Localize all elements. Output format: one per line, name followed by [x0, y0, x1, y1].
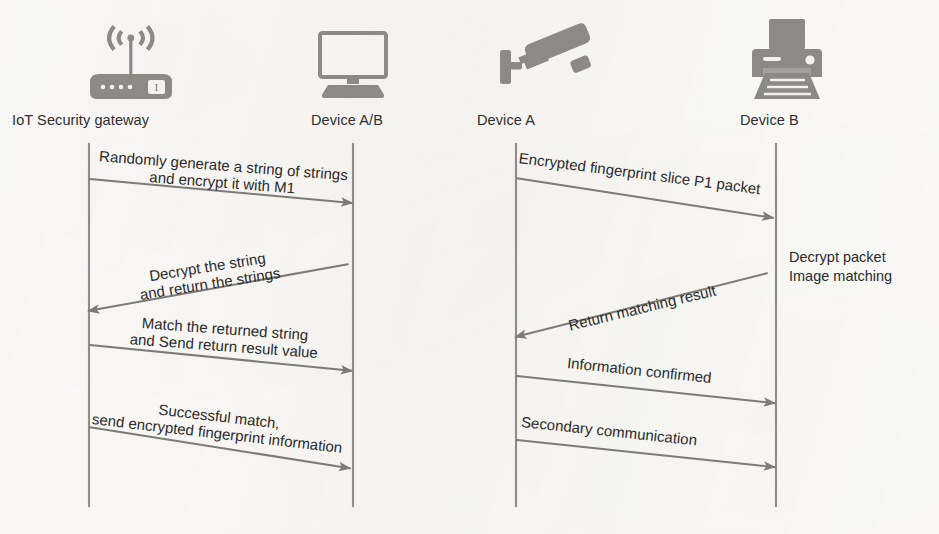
- actor-label-device-ab: Device A/B: [311, 112, 383, 128]
- arrowhead-right-icon: [763, 460, 777, 473]
- scan-bleedthrough-artifact: [120, 470, 150, 482]
- arrowhead-left-icon: [513, 328, 529, 343]
- actor-label-device-b: Device B: [740, 112, 799, 128]
- arrowhead-right-icon: [761, 210, 776, 224]
- desktop-monitor-icon: [312, 28, 394, 104]
- wifi-router-icon: I: [76, 14, 186, 106]
- arrowhead-right-icon: [763, 396, 777, 409]
- message-label-m6: Return matching result: [567, 271, 765, 334]
- lifeline-device-a: [515, 143, 517, 507]
- printer-icon: [744, 16, 830, 104]
- arrowhead-right-icon: [340, 364, 354, 377]
- arrowhead-right-icon: [338, 461, 353, 475]
- actor-label-device-a: Device A: [477, 112, 535, 128]
- scan-bleedthrough-artifact: [600, 200, 625, 212]
- sequence-diagram-figure: I IoT Security gateway Device A/B Random…: [0, 0, 939, 534]
- cctv-camera-icon: [492, 18, 592, 104]
- message-label-m2: Decrypt the string and return the string…: [100, 242, 318, 309]
- note-decrypt-packet: Decrypt packet Image matching: [789, 248, 892, 286]
- arrowhead-left-icon: [86, 303, 101, 317]
- svg-text:I: I: [155, 82, 158, 93]
- actor-label-gateway: IoT Security gateway: [12, 112, 149, 128]
- scan-bleedthrough-artifact: [180, 36, 220, 48]
- lifeline-gateway: [88, 143, 90, 507]
